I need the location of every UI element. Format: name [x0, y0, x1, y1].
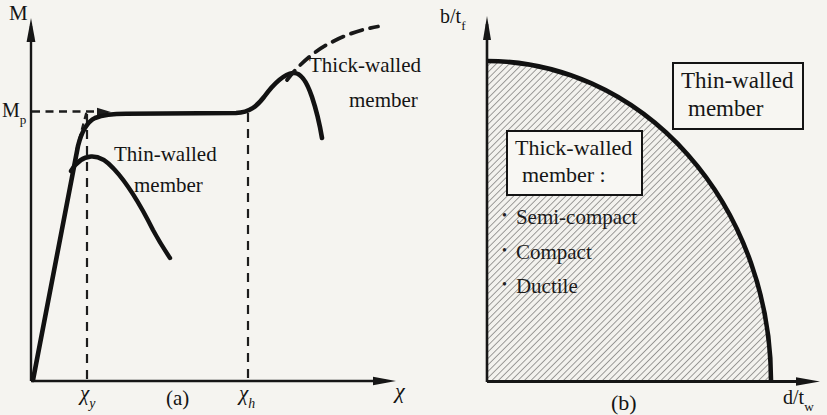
- tick-label-chi-y: χy: [80, 383, 95, 404]
- thin-walled-curve-label-line1: Thin-walled: [114, 144, 217, 165]
- thin-walled-curve-label-line2: member: [134, 175, 203, 196]
- bullet-icon: •: [502, 208, 507, 224]
- panel-a-x-axis-arrow-icon: [373, 377, 396, 385]
- bullet-label: Compact: [516, 240, 592, 264]
- panel-b-y-axis-main: b/t: [440, 5, 461, 27]
- panel-a-caption: (a): [166, 388, 189, 409]
- panel-b-x-axis-label: d/tw: [783, 387, 814, 407]
- tick-chi-y-main: χ: [80, 381, 89, 405]
- bullet-ductile: •Ductile: [502, 274, 578, 299]
- thick-walled-member-curve: [33, 73, 322, 380]
- bullet-icon: •: [502, 243, 507, 259]
- panel-b-x-axis-main: d/t: [783, 386, 804, 408]
- tick-chi-h-main: χ: [239, 381, 248, 405]
- thick-walled-curve-label-line2: member: [349, 90, 418, 111]
- yield-moment-sub: p: [20, 112, 27, 127]
- thick-box-line1: Thick-walled: [515, 135, 632, 160]
- thin-walled-member-box: Thin-walledmember: [672, 62, 804, 130]
- bullet-label: Semi-compact: [516, 205, 637, 229]
- tick-chi-h-sub: h: [248, 396, 255, 411]
- panel-b-y-axis-label: b/tf: [440, 6, 466, 26]
- thick-walled-member-box: Thick-walledmember :: [506, 130, 643, 196]
- panel-b-y-axis-arrow-icon: [483, 16, 491, 40]
- bullet-semi-compact: •Semi-compact: [502, 205, 637, 230]
- tick-chi-y-sub: y: [89, 396, 95, 411]
- thin-box-line1: Thin-walled: [681, 68, 793, 93]
- panel-b-x-axis-arrow-icon: [796, 377, 820, 386]
- panel-b-x-axis-sub: w: [804, 399, 814, 414]
- bullet-label: Ductile: [516, 274, 578, 298]
- thick-box-line2: member :: [515, 162, 632, 189]
- thick-walled-curve-label-line1: Thick-walled: [309, 55, 421, 76]
- tick-label-chi-h: χh: [239, 383, 255, 404]
- bullet-icon: •: [502, 277, 507, 293]
- thin-walled-member-curve: [71, 156, 170, 258]
- panel-b-y-axis-sub: f: [461, 18, 465, 33]
- panel-a-y-axis-label: M: [9, 3, 28, 24]
- yield-moment-main: M: [2, 99, 20, 121]
- yield-moment-label: Mp: [2, 100, 26, 120]
- thin-box-line2: member: [681, 95, 793, 123]
- panel-a-x-axis-label: χ: [395, 380, 405, 402]
- bullet-compact: •Compact: [502, 240, 592, 265]
- panel-b-caption: (b): [611, 392, 637, 414]
